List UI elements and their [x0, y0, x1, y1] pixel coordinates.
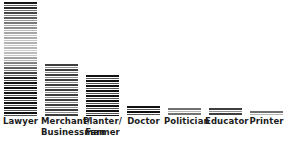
category-label: Lawyer — [0, 116, 41, 127]
category-axis: LawyerMerchant/BusinessmanPlanter/Farmer… — [0, 116, 287, 145]
bar — [45, 64, 78, 116]
category-label-line1: Planter/ — [83, 116, 122, 126]
bar — [127, 106, 160, 116]
category-label: Doctor — [123, 116, 164, 127]
bar-group — [86, 75, 119, 116]
bar — [4, 2, 37, 116]
category-label-line2: Businessman — [41, 127, 82, 138]
category-label: Planter/Farmer — [82, 116, 123, 138]
category-label-line1: Lawyer — [3, 116, 38, 126]
category-label-line1: Educator — [205, 116, 249, 126]
bar-chart: LawyerMerchant/BusinessmanPlanter/Farmer… — [0, 0, 287, 145]
category-label: Merchant/Businessman — [41, 116, 82, 138]
category-label-line2: Farmer — [82, 127, 123, 138]
bar-group — [209, 108, 242, 116]
category-label-line1: Printer — [249, 116, 283, 126]
bar-group — [127, 106, 160, 116]
category-label: Printer — [246, 116, 287, 127]
bar-group — [4, 2, 37, 116]
plot-area — [0, 0, 287, 116]
category-label: Politician — [164, 116, 205, 127]
category-label-line1: Doctor — [127, 116, 160, 126]
bar-group — [168, 108, 201, 116]
category-label-line1: Politician — [164, 116, 210, 126]
bar — [209, 108, 242, 116]
bar-group — [45, 64, 78, 116]
bar — [168, 108, 201, 116]
category-label: Educator — [205, 116, 246, 127]
bar — [86, 75, 119, 116]
